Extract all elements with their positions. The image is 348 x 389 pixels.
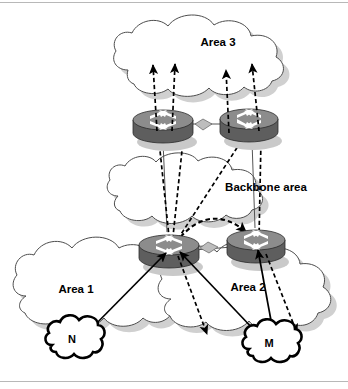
link-connector-top	[195, 119, 212, 130]
network-cloud-m[interactable]: M	[242, 319, 301, 362]
area-border-router-top-left[interactable]	[133, 110, 197, 151]
area-label-backbone: Backbone area	[225, 181, 307, 193]
network-cloud-m-label: M	[264, 337, 273, 349]
area-label-area1: Area 1	[58, 283, 94, 295]
area-label-area2: Area 2	[230, 281, 265, 293]
area-label-area3: Area 3	[200, 36, 235, 48]
network-cloud-n[interactable]: N	[45, 315, 104, 358]
diagram-canvas: N M Area 3 Backbone area Area 1 Area 2	[0, 0, 348, 389]
area-cloud-area3	[114, 15, 284, 96]
ospf-area-diagram: N M Area 3 Backbone area Area 1 Area 2	[0, 0, 348, 389]
network-cloud-n-label: N	[68, 333, 76, 345]
